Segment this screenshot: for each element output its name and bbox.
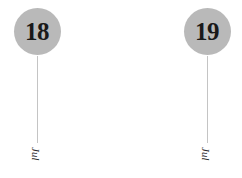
- day-bubble[interactable]: 19: [184, 8, 231, 55]
- month-label: Jul: [200, 147, 211, 160]
- event-stem: [37, 56, 38, 143]
- day-number: 18: [25, 19, 49, 44]
- day-number: 19: [195, 19, 219, 44]
- event-stem: [207, 56, 208, 143]
- day-bubble[interactable]: 18: [14, 8, 61, 55]
- timeline-canvas: 18Jul19Jul: [0, 0, 242, 178]
- month-label: Jul: [30, 147, 41, 160]
